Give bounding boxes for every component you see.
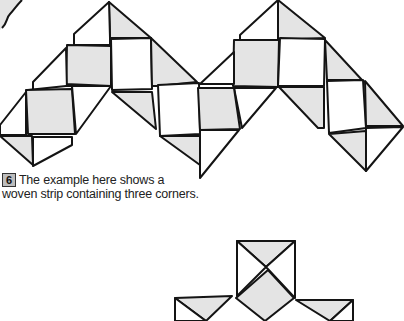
shaded-triangle (109, 2, 151, 38)
step-number-badge: 6 (2, 173, 16, 187)
shaded-square (66, 45, 111, 86)
figure-caption: 6The example here shows a woven strip co… (2, 173, 202, 201)
caption-text: The example here shows a woven strip con… (2, 173, 199, 201)
woven-strip-diagram (0, 0, 404, 321)
